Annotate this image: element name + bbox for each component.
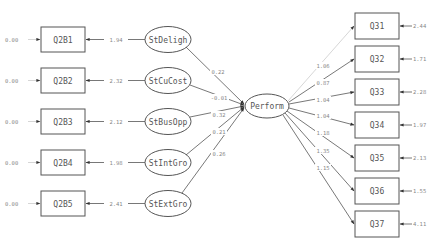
right-row-q33: Q33 2.28 xyxy=(355,79,426,105)
error-variance-q36: 1.55 xyxy=(413,188,426,194)
observed-label: Q33 xyxy=(370,88,385,97)
loading-value: 2.41 xyxy=(109,201,122,207)
error-variance-q2b2: 0.00 xyxy=(5,78,18,84)
latent-label: StExtGro xyxy=(149,200,188,209)
right-row-q37: Q37 4.11 xyxy=(355,211,426,237)
error-variance-q35: 2.13 xyxy=(413,155,426,161)
latent-label: StCuCost xyxy=(149,77,188,86)
observed-label: Q2B1 xyxy=(53,36,72,45)
observed-label: Q36 xyxy=(370,187,385,196)
path-coef-stintgro: 0.21 xyxy=(212,129,225,135)
loading-q32: 0.87 xyxy=(316,80,329,86)
path-coef-stextgro: 0.26 xyxy=(212,151,225,157)
right-row-q35: Q35 2.13 xyxy=(355,145,426,171)
right-boxes: Q31 2.44 Q32 1.71 Q33 2.28 Q34 1.97 Q35 … xyxy=(355,13,427,237)
path-coef-stdeligh: 0.22 xyxy=(211,69,224,75)
loading-q34: 1.04 xyxy=(316,113,330,119)
latent-label: StBusOpp xyxy=(149,118,188,127)
loading-value: 2.32 xyxy=(109,78,122,84)
observed-label: Q32 xyxy=(370,55,385,64)
right-row-q34: Q34 1.97 xyxy=(355,112,426,138)
error-variance-q33: 2.28 xyxy=(413,89,426,95)
error-variance-q31: 2.44 xyxy=(413,23,427,29)
left-row-1: 0.00 Q2B1 1.94 StDeligh xyxy=(5,27,191,53)
loading-value: 1.98 xyxy=(109,160,122,166)
left-row-4: 0.00 Q2B4 1.98 StIntGro xyxy=(5,150,191,176)
loading-q33: 1.04 xyxy=(316,97,330,103)
error-variance-q2b1: 0.00 xyxy=(5,37,18,43)
left-row-5: 0.00 Q2B5 2.41 StExtGro xyxy=(5,191,191,217)
latent-label-perform: Perform xyxy=(250,102,284,111)
observed-label: Q34 xyxy=(370,121,385,130)
loading-q36: 1.35 xyxy=(316,148,329,154)
observed-label: Q35 xyxy=(370,154,385,163)
loading-value: 2.12 xyxy=(109,119,122,125)
loading-q37: 1.15 xyxy=(316,165,329,171)
error-variance-q2b5: 0.00 xyxy=(5,201,18,207)
path-diagram: 0.00 Q2B1 1.94 StDeligh 0.00 Q2B2 2.32 S… xyxy=(0,0,442,251)
error-variance-q2b4: 0.00 xyxy=(5,160,18,166)
measurement-paths: 1.06 0.87 1.04 1.04 1.18 1.35 1.15 xyxy=(283,26,354,224)
error-variance-q37: 4.11 xyxy=(413,221,426,227)
left-row-3: 0.00 Q2B3 2.12 StBusOpp xyxy=(5,109,191,135)
path-coef-stbusopp: 0.32 xyxy=(212,112,225,118)
perform-node: Perform xyxy=(245,94,289,118)
observed-label: Q2B2 xyxy=(53,77,72,86)
loading-q31: 1.06 xyxy=(316,63,329,69)
left-row-2: 0.00 Q2B2 2.32 StCuCost xyxy=(5,68,191,94)
latent-label: StDeligh xyxy=(149,36,188,45)
loading-value: 1.94 xyxy=(109,37,123,43)
latent-label: StIntGro xyxy=(149,159,188,168)
path-coef-stcucost: -0.01 xyxy=(211,95,228,101)
error-variance-q32: 1.71 xyxy=(413,56,426,62)
right-row-q36: Q36 1.55 xyxy=(355,178,426,204)
loading-q35: 1.18 xyxy=(316,130,329,136)
right-row-q32: Q32 1.71 xyxy=(355,46,426,72)
error-variance-q2b3: 0.00 xyxy=(5,119,18,125)
error-variance-q34: 1.97 xyxy=(413,122,426,128)
observed-label: Q2B5 xyxy=(53,200,72,209)
right-row-q31: Q31 2.44 xyxy=(355,13,427,39)
observed-label: Q37 xyxy=(370,220,385,229)
observed-label: Q2B4 xyxy=(53,159,72,168)
observed-label: Q31 xyxy=(370,22,385,31)
observed-label: Q2B3 xyxy=(53,118,72,127)
